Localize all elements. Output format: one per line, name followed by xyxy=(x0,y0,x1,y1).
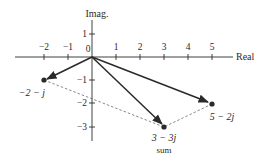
x-tick-label: 5 xyxy=(210,42,215,52)
dashed-edge-b-to-sum xyxy=(164,104,212,127)
imag-axis-label: Imag. xyxy=(85,8,108,19)
vector-b-arrow xyxy=(92,57,208,102)
x-tick-label: −2 xyxy=(39,42,49,52)
point-a-label: −2 − j xyxy=(19,87,45,98)
y-tick-label: −1 xyxy=(77,75,87,85)
x-tick-label: 2 xyxy=(138,42,143,52)
sum-caption: sum xyxy=(156,145,171,155)
parallelogram-edges xyxy=(44,80,212,127)
x-tick-label: −1 xyxy=(63,42,73,52)
x-tick-label: 4 xyxy=(186,42,191,52)
point-a-dot xyxy=(41,77,46,82)
vector-sum-arrow xyxy=(92,57,162,124)
point-b-dot xyxy=(209,101,214,106)
complex-plane-diagram: −2 −1 0 1 2 3 4 5 1 −1 −2 −3 Imag. Real … xyxy=(0,0,270,167)
origin-label: 0 xyxy=(86,44,91,54)
y-tick-label: −2 xyxy=(77,98,87,108)
point-b-label: 5 − 2j xyxy=(210,111,235,122)
y-tick-label: 1 xyxy=(82,29,87,39)
x-tick-label: 1 xyxy=(114,42,119,52)
point-sum-label: 3 − 3j xyxy=(151,132,177,143)
dashed-edge-a-to-sum xyxy=(44,80,164,127)
y-tick-label: −3 xyxy=(77,122,87,132)
x-tick-label: 3 xyxy=(162,42,167,52)
real-axis-label: Real xyxy=(236,51,255,62)
points xyxy=(41,77,214,129)
point-sum-dot xyxy=(161,124,166,129)
